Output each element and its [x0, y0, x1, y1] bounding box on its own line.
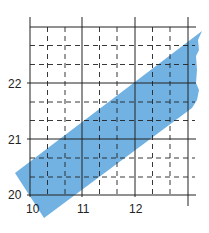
map-grid: 22 21 20 10 11 12 — [0, 0, 209, 233]
y-label-21: 21 — [8, 134, 21, 146]
blue-band — [15, 31, 202, 218]
y-label-22: 22 — [8, 78, 21, 90]
grid-svg — [0, 0, 209, 233]
x-label-10: 10 — [26, 203, 39, 215]
x-label-12: 12 — [129, 203, 142, 215]
y-label-20: 20 — [8, 189, 21, 201]
x-label-11: 11 — [77, 203, 89, 215]
